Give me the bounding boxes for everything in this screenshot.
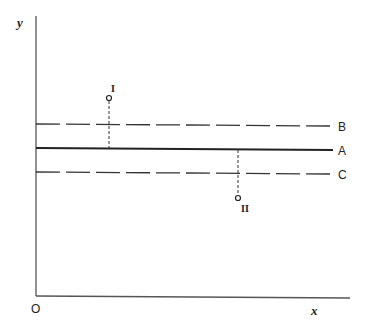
line-b [36, 124, 333, 126]
y-axis-label: y [15, 15, 23, 30]
line-b-label: B [338, 120, 346, 134]
point-ii-marker [236, 196, 241, 201]
line-c-label: C [338, 168, 347, 182]
x-axis [36, 296, 350, 298]
line-a [36, 148, 333, 150]
diagram-canvas: y O x B A C I II [0, 0, 367, 328]
point-i-marker [107, 96, 112, 101]
origin-label: O [31, 302, 40, 316]
x-axis-label: x [310, 303, 318, 318]
point-i-label: I [111, 83, 115, 94]
line-a-label: A [338, 144, 346, 158]
point-ii-label: II [241, 203, 249, 214]
line-c [36, 172, 333, 174]
